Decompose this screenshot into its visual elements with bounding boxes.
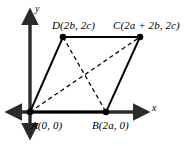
vertex-label-A: A(0, 0) [31, 120, 62, 131]
vertex-dot-A [27, 109, 34, 116]
vertex-dot-C [137, 34, 144, 41]
y-axis-label: y [35, 4, 40, 14]
vertex-dot-B [103, 109, 110, 116]
vertex-label-C: C(2a + 2b, 2c) [113, 20, 180, 31]
vertex-dot-D [60, 34, 67, 41]
diagonal-DB [63, 37, 106, 112]
x-axis-label: x [152, 103, 157, 113]
vertex-label-D: D(2b, 2c) [52, 20, 95, 31]
edge-DA [30, 37, 63, 112]
geometry-figure: D(2b, 2c) C(2a + 2b, 2c) A(0, 0) B(2a, 0… [0, 0, 195, 146]
vertex-label-B: B(2a, 0) [92, 120, 129, 131]
